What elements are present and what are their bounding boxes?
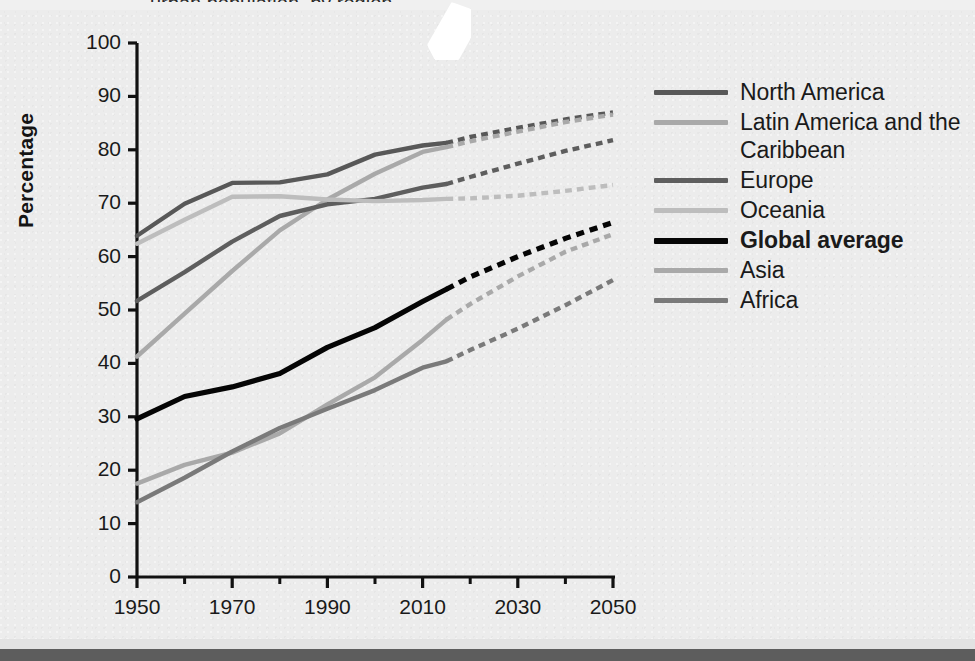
legend-item-label: Asia <box>740 256 784 284</box>
bottom-border-bar <box>0 649 975 661</box>
x-axis-tick-label: 2050 <box>573 595 653 619</box>
y-axis-tick-label: 30 <box>67 404 121 428</box>
y-axis-tick-label: 50 <box>67 297 121 321</box>
series-line-solid <box>137 320 446 484</box>
series-line-projection <box>446 185 613 199</box>
series-line-solid <box>137 361 446 502</box>
legend-item-label: Global average <box>740 226 904 254</box>
series-line-projection <box>446 115 613 148</box>
y-axis-tick-label: 80 <box>67 137 121 161</box>
legend-line-latin-america <box>654 120 728 125</box>
legend-item-label: Oceania <box>740 196 825 224</box>
legend-line-global-average <box>654 238 728 244</box>
legend-item[interactable]: Global average <box>654 226 972 254</box>
legend-item[interactable]: Europe <box>654 166 972 194</box>
x-axis-tick-label: 1950 <box>97 595 177 619</box>
legend-line-asia <box>654 268 728 273</box>
y-axis-tick-label: 40 <box>67 350 121 374</box>
legend-item[interactable]: Oceania <box>654 196 972 224</box>
y-axis-tick-label: 0 <box>67 564 121 588</box>
legend-item[interactable]: Asia <box>654 256 972 284</box>
x-axis-tick-label: 2010 <box>383 595 463 619</box>
series-line-projection <box>446 222 613 289</box>
legend-item[interactable]: Latin America and the Caribbean <box>654 108 972 164</box>
legend-item-label: Europe <box>740 166 814 194</box>
legend-line-africa <box>654 298 728 303</box>
legend-item-label: North America <box>740 78 884 106</box>
legend-line-europe <box>654 178 728 183</box>
legend-line-oceania <box>654 208 728 213</box>
x-axis-tick-label: 1970 <box>192 595 272 619</box>
bottom-padding-strip <box>0 639 975 649</box>
series-line-projection <box>446 280 613 361</box>
series-line-projection <box>446 234 613 319</box>
x-axis-tick-label: 1990 <box>287 595 367 619</box>
series-group <box>137 112 613 502</box>
legend-item[interactable]: Africa <box>654 286 972 314</box>
chart-page: urban population, by region Percentage 1… <box>0 0 975 661</box>
y-axis-tick-label: 10 <box>67 511 121 535</box>
y-axis-tick-label: 90 <box>67 83 121 107</box>
y-axis-tick-label: 100 <box>67 30 121 54</box>
y-axis-tick-label: 60 <box>67 244 121 268</box>
legend-item[interactable]: North America <box>654 78 972 106</box>
y-axis-tick-label: 20 <box>67 457 121 481</box>
x-axis-tick-label: 2030 <box>478 595 558 619</box>
series-line-projection <box>446 140 613 184</box>
legend-item-label: Africa <box>740 286 798 314</box>
legend-item-label: Latin America and the Caribbean <box>740 108 972 164</box>
chart-legend: North AmericaLatin America and the Carib… <box>654 78 972 316</box>
y-axis-tick-label: 70 <box>67 190 121 214</box>
series-line-solid <box>137 289 446 419</box>
legend-line-north-america <box>654 90 728 95</box>
